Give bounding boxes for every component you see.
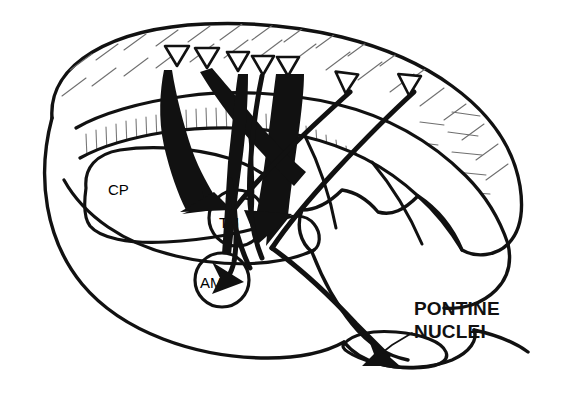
label-pontine-nuclei-line2: NUCLEI [414, 321, 486, 342]
label-caudate-putamen: CP [108, 181, 129, 198]
source-marker-triangle-6 [336, 69, 361, 95]
brain-schematic-svg: CP TH AM [0, 0, 567, 407]
source-marker-triangle-3 [227, 52, 249, 71]
source-marker-triangle-5 [277, 57, 299, 76]
label-pontine-nuclei-line1: PONTINE [414, 298, 500, 319]
callout-leader-line [378, 333, 412, 356]
source-marker-triangle-1 [165, 46, 189, 66]
source-marker-triangle-7 [398, 70, 424, 96]
callout-pontine-nuclei: PONTINE NUCLEI [378, 298, 500, 356]
source-marker-triangle-2 [195, 48, 219, 68]
source-marker-triangle-4 [252, 56, 274, 75]
neuroanatomy-diagram: CP TH AM [0, 0, 567, 407]
